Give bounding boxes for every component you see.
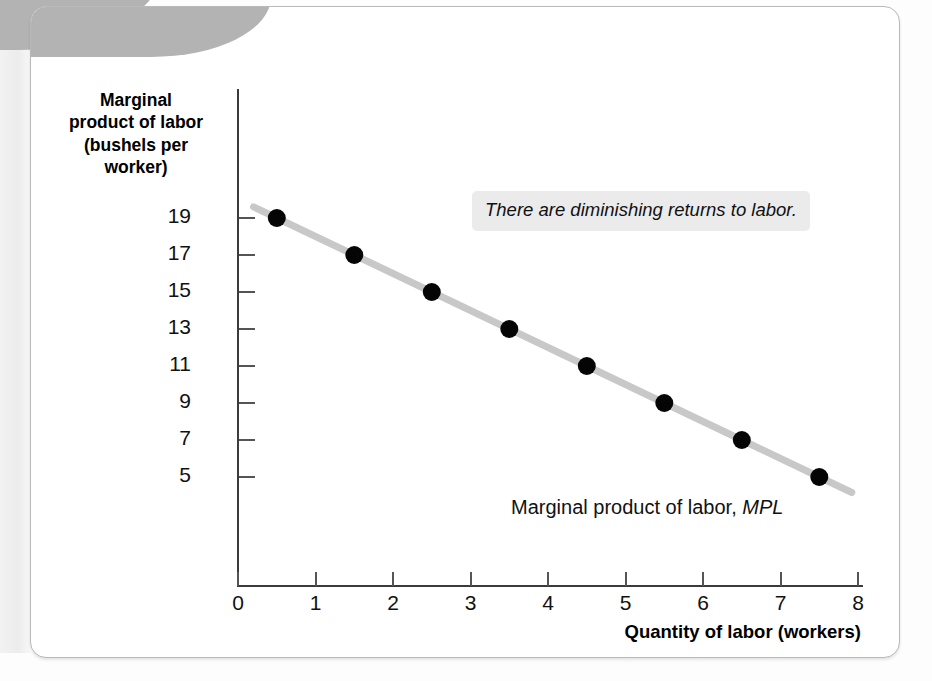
y-tick-label-text: 17 bbox=[168, 241, 191, 265]
y-tick-label-text: 5 bbox=[179, 463, 191, 487]
x-tick-3 bbox=[470, 572, 472, 586]
chart-plot-area: Marginal product of labor (bushels per w… bbox=[31, 7, 899, 657]
y-tick-11 bbox=[239, 365, 255, 367]
x-tick-label-7: 7 bbox=[761, 591, 801, 615]
data-point-7.5-5 bbox=[810, 468, 828, 486]
y-tick-7 bbox=[239, 439, 255, 441]
y-tick-5 bbox=[239, 476, 255, 478]
x-tick-label-8: 8 bbox=[838, 591, 878, 615]
x-tick-label-1: 1 bbox=[296, 591, 336, 615]
x-tick-label-5: 5 bbox=[606, 591, 646, 615]
figure-panel: Marginal product of labor (bushels per w… bbox=[30, 6, 900, 658]
data-point-1.5-17 bbox=[345, 246, 363, 264]
x-tick-label-2: 2 bbox=[373, 591, 413, 615]
y-tick-9 bbox=[239, 402, 255, 404]
mpl-line bbox=[254, 207, 852, 493]
y-tick-15 bbox=[239, 291, 255, 293]
series-label-symbol: MPL bbox=[742, 496, 783, 518]
series-label-text: Marginal product of labor, bbox=[511, 496, 742, 518]
data-point-3.5-13 bbox=[500, 320, 518, 338]
x-tick-label-0: 0 bbox=[218, 591, 258, 615]
x-tick-7 bbox=[780, 572, 782, 586]
y-tick-17 bbox=[239, 254, 255, 256]
data-point-2.5-15 bbox=[423, 283, 441, 301]
y-tick-13 bbox=[239, 328, 255, 330]
data-point-4.5-11 bbox=[578, 357, 596, 375]
x-tick-2 bbox=[392, 572, 394, 586]
data-point-5.5-9 bbox=[655, 394, 673, 412]
y-tick-label-text: 13 bbox=[168, 315, 191, 339]
mpl-line-path bbox=[254, 207, 852, 493]
x-tick-5 bbox=[625, 572, 627, 586]
series-label: Marginal product of labor, MPL bbox=[511, 496, 783, 519]
y-tick-label-text: 9 bbox=[179, 389, 191, 413]
x-tick-4 bbox=[547, 572, 549, 586]
y-tick-label-text: 11 bbox=[169, 352, 191, 376]
data-point-0.5-19 bbox=[268, 209, 286, 227]
y-tick-label-text: 19 bbox=[168, 204, 191, 228]
page-edge-strip bbox=[0, 28, 30, 653]
x-tick-1 bbox=[315, 572, 317, 586]
x-tick-label-3: 3 bbox=[451, 591, 491, 615]
x-tick-label-4: 4 bbox=[528, 591, 568, 615]
diminishing-returns-annotation: There are diminishing returns to labor. bbox=[472, 191, 810, 231]
x-tick-6 bbox=[702, 572, 704, 586]
data-point-6.5-7 bbox=[733, 431, 751, 449]
x-tick-8 bbox=[857, 572, 859, 586]
chart-svg bbox=[31, 7, 899, 657]
x-tick-label-6: 6 bbox=[683, 591, 723, 615]
y-tick-19 bbox=[239, 217, 255, 219]
x-tick-0 bbox=[237, 572, 239, 586]
y-tick-label-text: 15 bbox=[168, 278, 191, 302]
y-tick-label-text: 7 bbox=[179, 426, 191, 450]
